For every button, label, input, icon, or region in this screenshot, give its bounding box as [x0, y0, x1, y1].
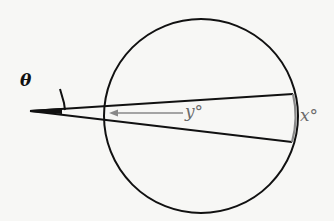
arrow-head-icon: [109, 110, 118, 117]
y-angle-label: y°: [185, 103, 203, 120]
x-arc-label: x°: [300, 107, 318, 124]
x-arc: [292, 94, 296, 142]
theta-pointer: [60, 89, 65, 110]
diagram-canvas: θ y° x°: [0, 0, 334, 221]
upper-secant: [30, 94, 293, 111]
geometry-figure: [0, 0, 334, 221]
theta-label: θ: [20, 72, 31, 89]
lower-secant: [30, 111, 292, 142]
